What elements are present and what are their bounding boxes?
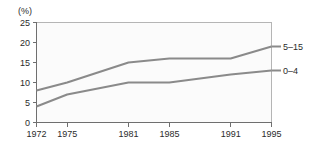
x-tick-label: 1985	[159, 129, 179, 139]
y-tick-label: 20	[20, 38, 30, 48]
y-tick-label: 0	[25, 118, 30, 128]
x-tick-group: 1972 1975 1981 1985 1991 1995	[26, 123, 281, 140]
x-tick-label: 1975	[57, 129, 77, 139]
y-tick-label: 15	[20, 58, 30, 68]
y-tick-label: 10	[20, 78, 30, 88]
y-tick-label: 5	[25, 98, 30, 108]
x-tick-label: 1995	[261, 129, 281, 139]
series-label-0-4: 0–4	[283, 66, 298, 76]
series-label-5-15: 5–15	[283, 42, 303, 52]
x-tick-label: 1991	[221, 129, 241, 139]
y-tick-group: 25 20 15 10 5 0	[20, 18, 37, 128]
plot-area-background	[37, 23, 272, 123]
y-tick-label: 25	[20, 18, 30, 28]
x-tick-label: 1981	[118, 129, 138, 139]
line-chart: (%) 25 20 15 10 5 0 1972 1975 1981	[0, 0, 318, 148]
x-tick-label: 1972	[26, 129, 46, 139]
y-axis-unit-label: (%)	[18, 6, 32, 16]
chart-canvas: (%) 25 20 15 10 5 0 1972 1975 1981	[0, 0, 318, 148]
